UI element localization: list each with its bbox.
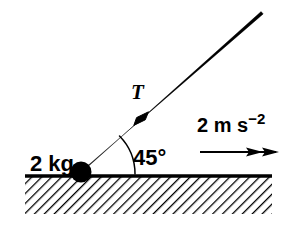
string-group [78,12,263,176]
acceleration-label: 2 m s−2 [197,110,265,136]
ground-hatching [25,177,272,214]
acceleration-label-exponent: −2 [248,110,265,127]
hatch-fill [25,177,272,214]
mass-label: 2 kg [30,151,74,176]
acceleration-label-value: 2 m s [197,114,248,136]
angle-label: 45° [133,145,166,170]
string-line [78,12,263,176]
physics-diagram: 2 kg T 45° 2 m s−2 [0,0,291,229]
acceleration-arrow [200,148,279,157]
tension-arrowhead [134,112,149,126]
diagram-canvas: 2 kg T 45° 2 m s−2 [0,0,291,229]
tension-label: T [131,80,145,104]
